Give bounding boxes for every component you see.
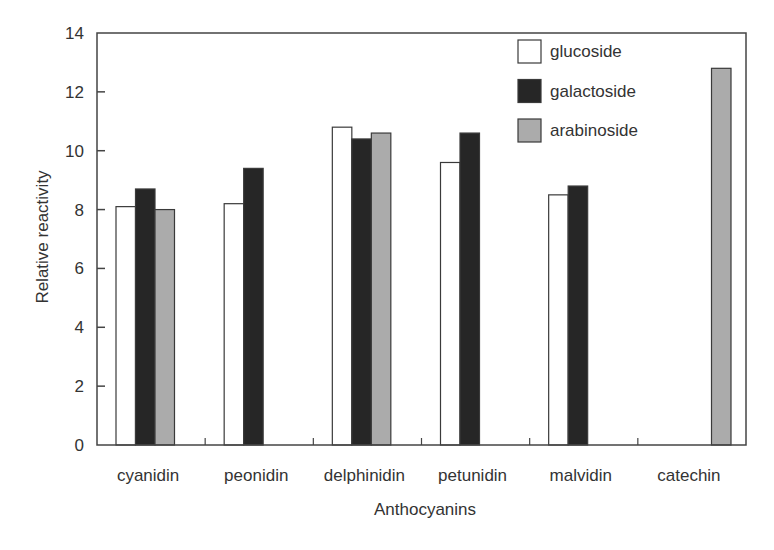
legend-label-galactoside: galactoside (550, 82, 636, 101)
bar-delphinidin-arabinoside (371, 133, 391, 445)
y-tick-label: 8 (75, 201, 84, 220)
y-tick-label: 14 (65, 24, 84, 43)
bar-malvidin-glucoside (549, 195, 569, 445)
bar-peonidin-galactoside (244, 168, 264, 445)
category-label: cyanidin (117, 466, 179, 485)
category-label: petunidin (438, 466, 507, 485)
legend-swatch-arabinoside (518, 119, 541, 142)
legend-swatch-glucoside (518, 40, 541, 63)
x-axis-title: Anthocyanins (374, 500, 476, 519)
bar-malvidin-galactoside (568, 186, 588, 445)
legend-label-glucoside: glucoside (550, 42, 622, 61)
category-label: delphinidin (324, 466, 405, 485)
y-tick-label: 10 (65, 142, 84, 161)
y-tick-label: 4 (75, 318, 84, 337)
bar-catechin-arabinoside (712, 68, 732, 445)
bar-peonidin-glucoside (224, 204, 244, 445)
y-axis-title: Relative reactivity (33, 170, 52, 304)
bar-petunidin-glucoside (441, 162, 461, 445)
legend-label-arabinoside: arabinoside (550, 121, 638, 140)
legend: glucosidegalactosidearabinoside (518, 40, 638, 142)
bar-cyanidin-galactoside (136, 189, 156, 445)
category-label: catechin (657, 466, 720, 485)
bar-cyanidin-glucoside (116, 207, 136, 445)
y-tick-label: 0 (75, 436, 84, 455)
category-label: peonidin (224, 466, 288, 485)
bar-delphinidin-galactoside (352, 139, 372, 445)
bar-chart: 02468101214 cyanidinpeonidindelphinidinp… (0, 0, 774, 550)
category-label: malvidin (550, 466, 612, 485)
legend-swatch-galactoside (518, 80, 541, 103)
bar-petunidin-galactoside (460, 133, 480, 445)
y-tick-label: 6 (75, 259, 84, 278)
bar-cyanidin-arabinoside (155, 210, 175, 445)
y-tick-label: 12 (65, 83, 84, 102)
y-tick-label: 2 (75, 377, 84, 396)
bar-delphinidin-glucoside (332, 127, 352, 445)
